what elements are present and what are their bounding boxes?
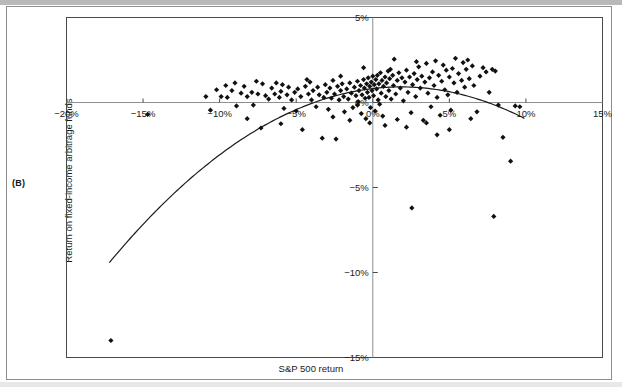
- data-point: [347, 80, 352, 85]
- x-tick-label: 10%: [516, 108, 536, 119]
- data-point: [223, 83, 228, 88]
- data-point: [315, 85, 320, 90]
- data-point: [260, 81, 265, 86]
- data-point: [387, 76, 392, 81]
- data-point: [245, 94, 250, 99]
- data-point: [314, 104, 319, 109]
- data-point: [370, 74, 375, 79]
- data-point: [424, 61, 429, 66]
- fitted-quadratic-curve: [109, 87, 524, 263]
- data-point: [234, 103, 239, 108]
- data-point: [358, 83, 363, 88]
- data-point: [269, 85, 274, 90]
- data-point: [487, 90, 492, 95]
- data-point: [416, 64, 421, 69]
- data-point: [412, 71, 417, 76]
- data-point: [435, 95, 440, 100]
- data-point: [346, 97, 351, 102]
- data-point: [393, 91, 398, 96]
- data-point: [425, 91, 430, 96]
- data-point: [461, 60, 466, 65]
- data-point: [347, 118, 352, 123]
- data-point: [404, 68, 409, 73]
- data-point: [284, 92, 289, 97]
- data-point: [477, 74, 482, 79]
- data-point: [414, 59, 419, 64]
- data-point: [444, 68, 449, 73]
- data-point: [409, 205, 414, 210]
- data-point: [371, 93, 376, 98]
- x-tick-label: 15%: [593, 108, 613, 119]
- data-point: [333, 136, 338, 141]
- data-point: [326, 107, 331, 112]
- data-point: [300, 127, 305, 132]
- data-point: [419, 74, 424, 79]
- data-point: [433, 58, 438, 63]
- data-point: [356, 88, 361, 93]
- data-point: [447, 127, 452, 132]
- data-point: [471, 83, 476, 88]
- data-point: [430, 69, 435, 74]
- data-point: [427, 75, 432, 80]
- data-point: [428, 104, 433, 109]
- data-point: [225, 95, 230, 100]
- data-point: [465, 57, 470, 62]
- data-point: [278, 121, 283, 126]
- data-point: [450, 66, 455, 71]
- data-point: [407, 74, 412, 79]
- data-point: [245, 116, 250, 121]
- data-point: [415, 77, 420, 82]
- data-point: [418, 85, 423, 90]
- data-point: [214, 87, 219, 92]
- data-point: [484, 69, 489, 74]
- data-point: [310, 88, 315, 93]
- data-point: [303, 84, 308, 89]
- data-point: [232, 80, 237, 85]
- data-point: [480, 65, 485, 70]
- data-point: [277, 95, 282, 100]
- data-point: [292, 90, 297, 95]
- data-point: [390, 73, 395, 78]
- data-point: [365, 90, 370, 95]
- data-point: [355, 79, 360, 84]
- data-point: [338, 74, 343, 79]
- data-point: [203, 94, 208, 99]
- data-point: [361, 65, 366, 70]
- data-point: [491, 214, 496, 219]
- x-tick-label: 0%: [366, 108, 380, 119]
- data-point: [229, 88, 234, 93]
- data-point: [249, 90, 254, 95]
- data-point: [344, 86, 349, 91]
- y-tick-label: −5%: [350, 182, 370, 193]
- data-point: [306, 91, 311, 96]
- data-point: [441, 63, 446, 68]
- data-point: [508, 159, 513, 164]
- data-point: [436, 73, 441, 78]
- y-tick-label: −15%: [344, 352, 369, 363]
- data-point: [238, 91, 243, 96]
- data-point: [382, 74, 387, 79]
- axis-tick-labels: −20%−15%−10%−5%0%5%10%15%5%0%−5%−10%−15%: [54, 12, 612, 363]
- y-tick-label: 5%: [355, 12, 369, 23]
- data-point: [439, 79, 444, 84]
- data-point: [336, 97, 341, 102]
- data-point: [435, 132, 440, 137]
- data-point: [398, 85, 403, 90]
- data-point: [320, 136, 325, 141]
- data-point: [380, 114, 385, 119]
- data-point: [462, 85, 467, 90]
- x-tick-label: −20%: [54, 108, 79, 119]
- data-point: [352, 85, 357, 90]
- scatter-plot-canvas: −20%−15%−10%−5%0%5%10%15%5%0%−5%−10%−15%: [0, 0, 622, 387]
- data-point: [338, 88, 343, 93]
- data-point: [399, 75, 404, 80]
- data-point: [413, 94, 418, 99]
- data-point: [382, 123, 387, 128]
- data-point: [342, 109, 347, 114]
- data-point: [323, 82, 328, 87]
- data-point: [392, 57, 397, 62]
- x-tick-label: −15%: [131, 108, 156, 119]
- data-point: [396, 70, 401, 75]
- data-point: [422, 80, 427, 85]
- data-point: [431, 83, 436, 88]
